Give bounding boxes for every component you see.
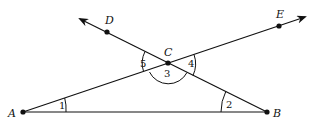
angle-label-3: 3 xyxy=(164,68,170,79)
ray-ace xyxy=(23,17,305,112)
label-c: C xyxy=(164,46,173,59)
point-b xyxy=(264,109,269,114)
label-b: B xyxy=(272,107,281,120)
geometry-diagram: A B C D E 1 2 3 4 5 xyxy=(0,0,315,125)
angle-label-2: 2 xyxy=(226,99,232,110)
point-a xyxy=(20,109,25,114)
angle-label-4: 4 xyxy=(188,58,194,69)
point-c xyxy=(165,60,170,65)
angle-label-1: 1 xyxy=(59,100,65,111)
label-a: A xyxy=(7,107,16,120)
angle-label-5: 5 xyxy=(140,58,146,69)
point-d xyxy=(104,29,109,34)
point-e xyxy=(276,23,281,28)
diagram-canvas: A B C D E 1 2 3 4 5 xyxy=(0,0,315,125)
label-d: D xyxy=(104,14,114,27)
label-e: E xyxy=(275,8,284,21)
